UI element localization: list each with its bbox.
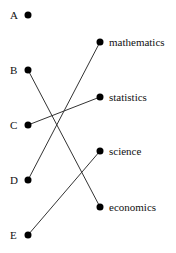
node-dot [25,122,32,129]
right-label-science: science [109,145,141,157]
node-dot [97,148,104,155]
node-dot [25,67,32,74]
connection-line [28,151,100,235]
node-dot [25,177,32,184]
left-label-a: A [10,9,18,21]
left-label-c: C [10,119,17,131]
right-label-economics: economics [109,201,156,213]
left-label-b: B [10,64,17,76]
connection-lines [28,42,100,235]
node-dot [25,12,32,19]
node-dot [97,39,104,46]
node-dot [97,204,104,211]
node-dots [25,12,104,239]
left-label-e: E [10,229,17,241]
left-label-d: D [10,174,18,186]
right-label-mathematics: mathematics [109,36,165,48]
connection-line [28,42,100,180]
right-label-statistics: statistics [109,91,147,103]
connection-line [28,70,100,207]
node-dot [25,232,32,239]
node-dot [97,94,104,101]
